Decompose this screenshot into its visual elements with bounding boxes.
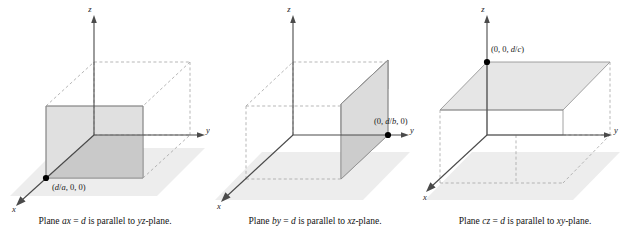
z-axis-label: z bbox=[87, 4, 92, 14]
caption-lead: Plane bbox=[459, 216, 482, 226]
y-axis-label: y bbox=[409, 125, 414, 135]
panel-plane-cz-equals-d: z y x (0, 0, d/c) Plane cz = d is parall… bbox=[420, 0, 630, 238]
label-open: (0, bbox=[374, 116, 385, 126]
z-axis-label: z bbox=[286, 4, 291, 14]
caption-plane-name: xy bbox=[557, 216, 565, 226]
panel-3-caption: Plane cz = d is parallel to xy-plane. bbox=[420, 215, 630, 228]
caption-equals: = bbox=[490, 216, 500, 226]
z-axis-arrow bbox=[484, 15, 490, 23]
figure-root: z y x (d/a, 0, 0) Plane ax = d is parall… bbox=[0, 0, 630, 238]
plane-face-light bbox=[440, 62, 610, 110]
y-axis-arrow bbox=[604, 132, 612, 138]
x-axis-label: x bbox=[422, 192, 427, 202]
caption-lead: Plane bbox=[38, 216, 61, 226]
intercept-point-label: (d/a, 0, 0) bbox=[52, 182, 86, 192]
y-axis-label: y bbox=[613, 125, 618, 135]
ground-plane bbox=[425, 152, 620, 200]
caption-equals: = bbox=[71, 216, 81, 226]
x-axis-label: x bbox=[11, 204, 16, 212]
caption-tail: -plane. bbox=[355, 216, 381, 226]
y-axis-arrow bbox=[401, 132, 409, 138]
caption-tail: -plane. bbox=[565, 216, 591, 226]
ground-plane bbox=[215, 152, 410, 200]
panel-plane-ax-equals-d: z y x (d/a, 0, 0) Plane ax = d is parall… bbox=[0, 0, 210, 238]
z-axis-label: z bbox=[480, 4, 485, 14]
panel-3-diagram: z y x (0, 0, d/c) bbox=[420, 0, 630, 212]
z-axis-arrow bbox=[290, 15, 296, 23]
panel-1-caption: Plane ax = d is parallel to yz-plane. bbox=[0, 215, 210, 228]
intercept-point-dot bbox=[385, 132, 391, 138]
label-rest: ) bbox=[521, 44, 524, 54]
label-rest: , 0, 0) bbox=[66, 182, 86, 192]
panel-1-diagram: z y x (d/a, 0, 0) bbox=[0, 0, 210, 212]
panel-plane-by-equals-d: z y x (0, d/b, 0) Plane by = d is parall… bbox=[210, 0, 420, 238]
caption-equals: = bbox=[281, 216, 291, 226]
intercept-point-label: (0, 0, d/c) bbox=[491, 44, 524, 54]
caption-lead: Plane bbox=[248, 216, 271, 226]
intercept-point-dot bbox=[484, 59, 490, 65]
caption-middle: is parallel to bbox=[505, 216, 557, 226]
caption-middle: is parallel to bbox=[86, 216, 138, 226]
intercept-point-label: (0, d/b, 0) bbox=[374, 116, 408, 126]
label-open: (0, 0, bbox=[491, 44, 511, 54]
z-axis-arrow bbox=[91, 15, 97, 23]
y-axis-arrow bbox=[197, 132, 205, 138]
label-rest: , 0) bbox=[396, 116, 408, 126]
panel-2-caption: Plane by = d is parallel to xz-plane. bbox=[210, 215, 420, 228]
x-axis-label: x bbox=[216, 201, 221, 211]
intercept-point-dot bbox=[43, 175, 49, 181]
caption-middle: is parallel to bbox=[296, 216, 348, 226]
caption-tail: -plane. bbox=[145, 216, 171, 226]
panel-2-diagram: z y x (0, d/b, 0) bbox=[210, 0, 420, 212]
